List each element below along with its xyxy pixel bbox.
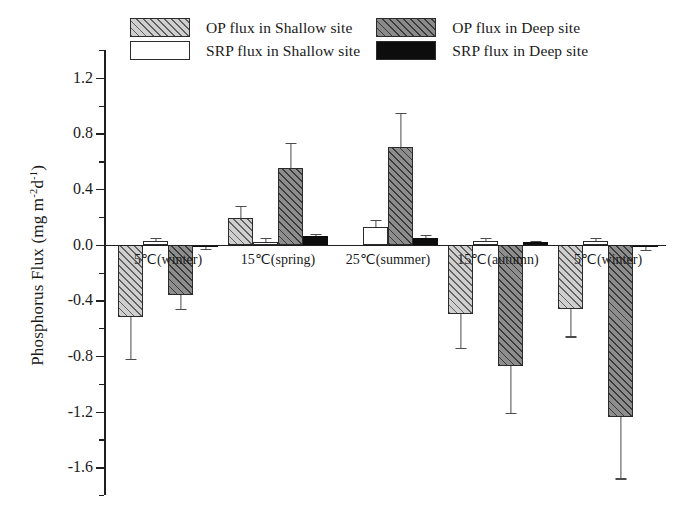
- y-tick-label: 0.8: [73, 124, 93, 142]
- error-bar-srp-shallow: [583, 238, 608, 241]
- y-tick-minor: [99, 439, 104, 440]
- x-category-label: 25℃(summer): [346, 251, 430, 268]
- legend-swatch-op-deep: [376, 18, 436, 37]
- x-category-label: 5℃(winter): [574, 251, 642, 268]
- error-bar-cap: [480, 238, 491, 239]
- bar-op-shallow: [228, 218, 253, 244]
- error-bar-stem: [130, 317, 131, 359]
- y-axis-title-sup-area: -2: [28, 189, 39, 198]
- error-bar-srp-deep: [303, 234, 328, 237]
- y-tick-minor: [99, 106, 104, 107]
- error-bar-cap: [285, 143, 296, 144]
- error-bar-cap: [175, 309, 186, 310]
- error-bar-stem: [180, 295, 181, 309]
- error-bar-cap: [310, 234, 321, 235]
- y-tick-major: [96, 78, 104, 79]
- y-tick-label: 1.2: [73, 69, 93, 87]
- y-axis-title-sup-day: -1: [28, 171, 39, 180]
- error-bar-srp-shallow: [143, 238, 168, 241]
- y-tick-major: [96, 133, 104, 134]
- error-bar-cap: [615, 478, 626, 479]
- error-bar-op-deep: [608, 417, 633, 478]
- error-bar-cap: [455, 348, 466, 349]
- bar-op-deep: [278, 168, 303, 244]
- y-tick-label: -0.4: [68, 291, 93, 309]
- error-bar-stem: [510, 366, 511, 413]
- zero-baseline: [104, 245, 666, 247]
- legend-label-op-shallow: OP flux in Shallow site: [206, 19, 360, 37]
- y-tick-label: -0.8: [68, 347, 93, 365]
- y-tick-major: [96, 412, 104, 413]
- error-bar-cap: [260, 238, 271, 239]
- error-bar-op-deep: [278, 143, 303, 168]
- error-bar-stem: [620, 417, 621, 478]
- y-tick-major: [96, 300, 104, 301]
- error-bar-cap: [420, 235, 431, 236]
- error-bar-stem: [400, 113, 401, 148]
- error-bar-srp-shallow: [253, 238, 278, 242]
- y-tick-minor: [99, 273, 104, 274]
- error-bar-srp-deep: [523, 241, 548, 242]
- error-bar-srp-deep: [193, 247, 218, 248]
- error-bar-cap: [505, 413, 516, 414]
- x-category-label: 5℃(winter): [134, 251, 202, 268]
- error-bar-stem: [290, 143, 291, 168]
- y-tick-minor: [99, 328, 104, 329]
- y-tick-minor: [99, 50, 104, 51]
- error-bar-op-deep: [388, 113, 413, 148]
- legend-label-op-deep: OP flux in Deep site: [452, 19, 588, 37]
- y-tick-major: [96, 245, 104, 246]
- y-tick-major: [96, 356, 104, 357]
- error-bar-op-shallow: [118, 317, 143, 359]
- error-bar-stem: [460, 314, 461, 347]
- error-bar-op-shallow: [228, 206, 253, 219]
- legend-swatch-op-shallow: [130, 18, 190, 37]
- error-bar-cap: [125, 359, 136, 360]
- bar-srp-deep: [413, 238, 438, 245]
- error-bar-cap: [590, 238, 601, 239]
- plot-area: 1.20.80.40.0-0.4-0.8-1.2-1.6 5℃(winter)1…: [104, 50, 666, 495]
- x-category-label: 15℃(spring): [241, 251, 315, 268]
- bar-srp-deep: [303, 236, 328, 244]
- y-tick-label: -1.6: [68, 458, 93, 476]
- phosphorus-flux-chart: OP flux in Shallow site OP flux in Deep …: [0, 0, 677, 526]
- y-tick-label: 0.4: [73, 180, 93, 198]
- y-tick-major: [96, 467, 104, 468]
- y-axis-line: [104, 50, 106, 495]
- error-bar-stem: [570, 309, 571, 337]
- y-tick-label: 0.0: [73, 236, 93, 254]
- y-axis-title: Phosphorus Flux (mg m-2d-1): [28, 135, 49, 395]
- bar-op-deep: [608, 245, 633, 417]
- error-bar-cap: [235, 206, 246, 207]
- y-axis-title-main: Phosphorus Flux (mg m: [28, 198, 47, 366]
- error-bar-srp-deep: [413, 235, 438, 238]
- error-bar-op-deep: [498, 366, 523, 413]
- y-tick-label: -1.2: [68, 403, 93, 421]
- y-tick-minor: [99, 495, 104, 496]
- y-tick-minor: [99, 161, 104, 162]
- error-bar-op-shallow: [558, 309, 583, 337]
- y-axis-title-end: ): [28, 165, 47, 171]
- error-bar-op-deep: [168, 295, 193, 309]
- y-tick-major: [96, 189, 104, 190]
- bar-srp-shallow: [363, 227, 388, 245]
- y-tick-minor: [99, 217, 104, 218]
- error-bar-stem: [240, 206, 241, 219]
- error-bar-cap: [395, 113, 406, 114]
- error-bar-cap: [150, 238, 161, 239]
- y-tick-minor: [99, 384, 104, 385]
- error-bar-cap: [530, 241, 541, 242]
- error-bar-op-shallow: [448, 314, 473, 347]
- x-category-label: 15℃(autumn): [457, 251, 538, 268]
- error-bar-srp-shallow: [363, 220, 388, 227]
- error-bar-cap: [370, 220, 381, 221]
- bar-op-deep: [388, 147, 413, 244]
- y-axis-title-mid: d: [28, 180, 47, 189]
- error-bar-srp-shallow: [473, 238, 498, 241]
- error-bar-cap: [565, 336, 576, 337]
